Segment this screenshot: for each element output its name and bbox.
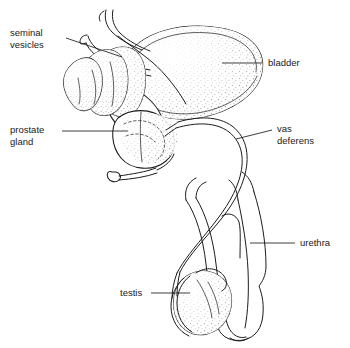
label-seminal-vesicles-line2: vesicles bbox=[10, 39, 44, 50]
label-prostate-gland-line2: gland bbox=[10, 136, 33, 147]
label-bladder: bladder bbox=[268, 57, 300, 68]
diagram-canvas: seminal vesicles prostate gland bladder … bbox=[0, 0, 350, 348]
label-testis: testis bbox=[120, 287, 142, 298]
label-vas-deferens-line2: deferens bbox=[277, 135, 314, 146]
label-prostate-gland-line1: prostate bbox=[10, 124, 44, 135]
label-vas-deferens-line1: vas bbox=[277, 123, 292, 134]
testis-structure bbox=[168, 264, 238, 340]
vas-deferens-structure bbox=[165, 118, 247, 273]
label-urethra: urethra bbox=[300, 237, 331, 248]
leader-vas-deferens bbox=[236, 130, 272, 139]
label-seminal-vesicles-line1: seminal bbox=[10, 27, 43, 38]
anatomical-diagram-figure: seminal vesicles prostate gland bladder … bbox=[0, 0, 350, 348]
